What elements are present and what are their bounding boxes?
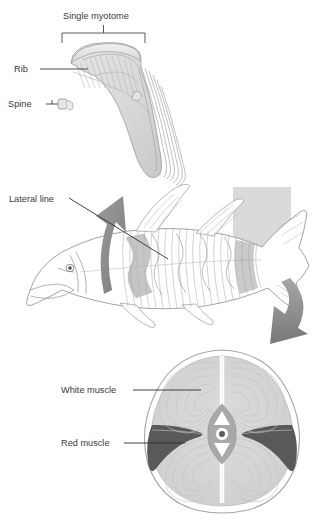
rib-label: Rib (14, 64, 28, 74)
fish-lateral-panel: Lateral line (9, 184, 309, 344)
single-myotome-label: Single myotome (63, 11, 129, 21)
spine-vertebra (58, 99, 73, 110)
single-myotome-bracket (62, 25, 145, 43)
lateral-line-label: Lateral line (9, 194, 54, 204)
white-muscle-label: White muscle (61, 385, 116, 395)
notochord-inner (219, 431, 225, 437)
myotome-body (71, 43, 185, 186)
red-muscle-label: Red muscle (61, 438, 110, 448)
myotome-detail-panel: Rib Spine Single myotome (8, 11, 185, 186)
cross-section-panel: White muscle Red muscle (61, 350, 300, 513)
fish-eye (66, 264, 74, 271)
figure-root: Rib Spine Single myotome (0, 0, 324, 525)
spine-callout: Spine (8, 99, 58, 109)
anatomy-diagram: Rib Spine Single myotome (0, 0, 324, 525)
spine-label: Spine (8, 99, 32, 109)
